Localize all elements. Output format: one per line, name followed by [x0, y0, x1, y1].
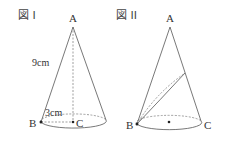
figure-1-radius-length: 3cm	[45, 107, 62, 118]
cone-diagrams: 図 I A B C 9cm 3cm 図 II A B	[0, 0, 227, 141]
figure-2-b-label: B	[126, 119, 133, 131]
figure-1-c-label: C	[76, 117, 83, 129]
figure-2-apex-label: A	[166, 12, 174, 24]
figure-1-point-c	[72, 121, 75, 124]
figure-1-b-label: B	[29, 117, 36, 129]
figure-2-c-label: C	[204, 119, 211, 131]
figure-2-right-slant	[170, 27, 201, 121]
figure-2-left-slant	[137, 27, 170, 124]
figure-1-slant-length: 9cm	[32, 57, 49, 68]
figure-1-apex-label: A	[69, 12, 77, 24]
figure-2-title: 図 II	[116, 9, 137, 22]
figure-2: 図 II A B C	[116, 9, 211, 131]
figure-2-base-center	[168, 121, 171, 124]
figure-1-right-slant	[73, 27, 106, 120]
figure-2-point-b	[136, 123, 139, 126]
figure-2-path-front	[137, 73, 185, 124]
figure-1-title: 図 I	[18, 9, 36, 22]
figure-1-point-b	[40, 121, 43, 124]
figure-1: 図 I A B C 9cm 3cm	[18, 9, 106, 129]
